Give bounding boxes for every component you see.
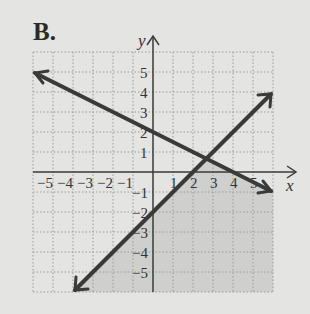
svg-text:−5: −5 (132, 265, 148, 281)
y-axis-label: y (136, 31, 146, 50)
svg-text:−1: −1 (132, 185, 148, 201)
y-tick-labels: 5 4 3 2 1 −1 −2 −3 −4 −5 (132, 65, 148, 281)
coordinate-plane: x y −5 −4 −3 −2 −1 1 2 3 4 5 5 4 3 2 1 −… (0, 0, 310, 314)
svg-text:1: 1 (140, 145, 148, 161)
svg-text:2: 2 (190, 175, 198, 191)
svg-text:−4: −4 (57, 175, 73, 191)
svg-text:4: 4 (140, 85, 148, 101)
svg-text:−5: −5 (37, 175, 53, 191)
svg-text:−2: −2 (97, 175, 113, 191)
svg-text:4: 4 (230, 175, 238, 191)
x-axis-label: x (285, 176, 294, 195)
svg-text:−1: −1 (117, 175, 133, 191)
svg-text:−3: −3 (77, 175, 93, 191)
svg-text:3: 3 (210, 175, 218, 191)
svg-text:−4: −4 (132, 245, 148, 261)
svg-text:3: 3 (140, 105, 148, 121)
svg-text:5: 5 (140, 65, 148, 81)
